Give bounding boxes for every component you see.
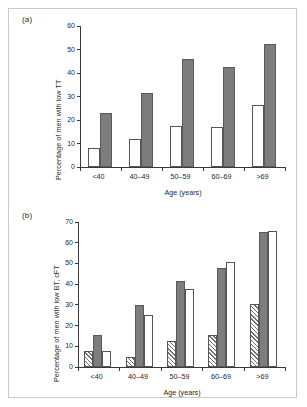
y-tick-label: 10 xyxy=(67,139,75,148)
bar xyxy=(144,315,153,367)
bar-group xyxy=(84,222,111,367)
panel-b-bars xyxy=(79,222,286,367)
y-tick-mark xyxy=(77,96,80,97)
bar xyxy=(208,335,217,367)
bar xyxy=(170,126,182,167)
bar-group xyxy=(129,26,153,167)
x-tick-label: >69 xyxy=(256,372,268,381)
bar xyxy=(93,335,102,367)
y-tick-mark xyxy=(77,26,80,27)
x-tick-label: 60–69 xyxy=(212,172,232,181)
y-tick-label: 60 xyxy=(67,21,75,30)
y-tick-mark xyxy=(77,143,80,144)
bar-group xyxy=(211,26,235,167)
bar xyxy=(268,231,277,367)
bar xyxy=(226,262,235,367)
x-tick-mark xyxy=(202,368,203,371)
bar xyxy=(167,341,176,367)
x-tick-mark xyxy=(119,368,120,371)
bar-group xyxy=(167,222,194,367)
y-tick-mark xyxy=(75,242,78,243)
bar-group xyxy=(208,222,235,367)
bar xyxy=(259,232,268,367)
y-tick-mark xyxy=(75,263,78,264)
bar-group xyxy=(252,26,276,167)
y-tick-label: 70 xyxy=(65,217,73,226)
y-tick-mark xyxy=(77,120,80,121)
bar xyxy=(141,93,153,167)
panel-b-x-axis-title: Age (years) xyxy=(78,388,286,397)
x-tick-mark xyxy=(121,168,122,171)
x-tick-mark xyxy=(285,168,286,171)
bar-group xyxy=(250,222,277,367)
x-tick-label: 50–59 xyxy=(170,372,190,381)
y-tick-label: 40 xyxy=(67,68,75,77)
y-tick-label: 50 xyxy=(67,45,75,54)
bar-group xyxy=(126,222,153,367)
y-tick-mark xyxy=(75,304,78,305)
x-tick-label: <40 xyxy=(91,372,103,381)
panel-a-plot-area: <4040–4950–5960–69>69 Age (years) 010203… xyxy=(80,26,286,168)
y-tick-label: 20 xyxy=(65,321,73,330)
bar xyxy=(223,67,235,167)
x-tick-label: 40–49 xyxy=(128,372,148,381)
bar xyxy=(176,281,185,367)
bar xyxy=(185,289,194,367)
y-tick-label: 20 xyxy=(67,115,75,124)
bar xyxy=(126,357,135,367)
x-tick-mark xyxy=(80,168,81,171)
y-tick-mark xyxy=(75,222,78,223)
bar xyxy=(217,268,226,367)
bar xyxy=(84,351,93,367)
x-tick-mark xyxy=(203,168,204,171)
x-tick-label: 40–49 xyxy=(130,172,150,181)
bar xyxy=(88,148,100,167)
panel-a-bars xyxy=(81,26,286,167)
y-tick-mark xyxy=(77,73,80,74)
bar xyxy=(250,304,259,367)
bar xyxy=(182,59,194,167)
y-tick-label: 50 xyxy=(65,258,73,267)
panel-b: (b) Percentage of men with low BT, cFT <… xyxy=(8,204,297,398)
x-tick-mark xyxy=(244,168,245,171)
y-tick-label: 0 xyxy=(71,162,75,171)
panel-b-y-axis-title: Percentage of men with low BT, cFT xyxy=(52,265,61,382)
x-tick-mark xyxy=(162,168,163,171)
panel-b-x-axis-line xyxy=(78,367,286,368)
panel-b-plot-area: <4040–4950–5960–69>69 Age (years) 010203… xyxy=(78,222,286,368)
x-tick-mark xyxy=(161,368,162,371)
panel-a-tag: (a) xyxy=(22,15,32,24)
x-tick-label: 60–69 xyxy=(211,372,231,381)
panel-a-x-axis-title: Age (years) xyxy=(80,188,286,197)
bar xyxy=(102,351,111,367)
bar-group xyxy=(88,26,112,167)
y-tick-label: 30 xyxy=(65,300,73,309)
x-tick-mark xyxy=(78,368,79,371)
bar xyxy=(211,127,223,167)
panel-a-y-axis-title: Percentage of men with low TT xyxy=(54,80,63,180)
panel-b-tag: (b) xyxy=(22,211,32,220)
bar xyxy=(264,44,276,167)
y-tick-mark xyxy=(75,346,78,347)
y-tick-label: 0 xyxy=(69,362,73,371)
x-tick-mark xyxy=(285,368,286,371)
y-tick-mark xyxy=(75,284,78,285)
y-tick-label: 30 xyxy=(67,92,75,101)
figure-root: (a) Percentage of men with low TT <4040–… xyxy=(0,0,307,407)
y-tick-mark xyxy=(75,325,78,326)
bar xyxy=(135,305,144,367)
y-tick-mark xyxy=(77,49,80,50)
x-tick-label: 50–59 xyxy=(171,172,191,181)
panel-a-x-axis-line xyxy=(80,167,286,168)
x-tick-label: >69 xyxy=(256,172,268,181)
bar xyxy=(100,113,112,167)
y-tick-label: 40 xyxy=(65,279,73,288)
panel-a: (a) Percentage of men with low TT <4040–… xyxy=(8,8,297,204)
bar xyxy=(129,139,141,167)
y-tick-label: 10 xyxy=(65,341,73,350)
y-tick-label: 60 xyxy=(65,238,73,247)
bar-group xyxy=(170,26,194,167)
x-tick-mark xyxy=(244,368,245,371)
bar xyxy=(252,105,264,167)
x-tick-label: <40 xyxy=(92,172,104,181)
